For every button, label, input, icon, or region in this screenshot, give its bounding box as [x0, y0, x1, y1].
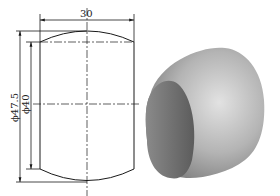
dim-label-40: ϕ40: [20, 94, 31, 114]
technical-drawing: 30 ϕ47.5 ϕ40: [0, 0, 280, 196]
isometric-view: [146, 48, 265, 179]
front-view: [33, 8, 140, 196]
dim-label-30: 30: [80, 8, 93, 19]
dim-label-47-5: ϕ47.5: [9, 93, 20, 122]
